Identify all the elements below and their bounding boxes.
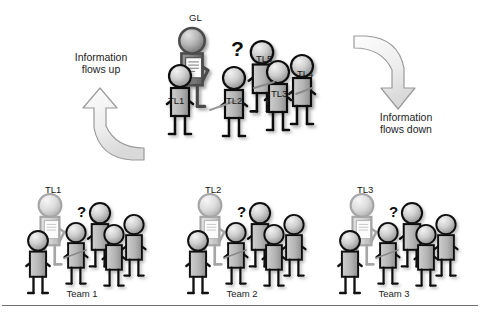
figure-team2-front — [186, 231, 209, 293]
information-flows-down-arrow — [352, 34, 422, 114]
figure-team2-member-2 — [283, 215, 306, 276]
team-3-svg — [330, 188, 470, 300]
arrow-up-wrapper — [76, 86, 146, 166]
figure-team3-front — [338, 231, 361, 293]
figure-team3-member-4 — [415, 225, 438, 286]
flow-down-line2: flows down — [357, 124, 455, 136]
team-3-figures — [330, 188, 470, 300]
label-team-3-leader: TL3 — [357, 185, 373, 196]
team-1-svg — [18, 188, 158, 300]
figure-team3-member-2 — [435, 215, 458, 276]
figure-team2-member-4 — [263, 225, 286, 286]
label-team-1-leader: TL1 — [45, 185, 61, 196]
figure-team1-front — [26, 231, 49, 293]
top-group-figures — [150, 16, 340, 152]
figure-tl4 — [289, 55, 315, 124]
team-1-figures — [18, 188, 158, 300]
flow-up-line1: Information — [58, 52, 144, 64]
team-2-figures — [178, 188, 318, 300]
flow-up-line2: flows up — [58, 64, 144, 76]
question-mark-team-1: ? — [77, 204, 86, 219]
question-mark-team-3: ? — [389, 204, 398, 219]
flow-down-line1: Information — [357, 112, 455, 124]
label-tl5: TL5 — [256, 54, 272, 65]
label-gl: GL — [189, 13, 202, 24]
team-2-svg — [178, 188, 318, 300]
figure-team1-member-4 — [103, 225, 126, 286]
label-tl4: TL4 — [297, 69, 313, 80]
arrow-down-wrapper — [352, 34, 422, 114]
flow-down-caption: Information flows down — [357, 112, 455, 136]
question-mark-team-2: ? — [237, 204, 246, 219]
label-team-2-leader: TL2 — [205, 185, 221, 196]
caption-team-1: Team 1 — [52, 289, 112, 300]
flow-up-caption: Information flows up — [58, 52, 144, 76]
diagram-canvas: Information flows up Information flows d… — [0, 0, 480, 318]
label-tl3: TL3 — [271, 89, 287, 100]
caption-team-3: Team 3 — [364, 289, 424, 300]
label-tl1: TL1 — [168, 96, 184, 107]
figure-team1-member-2 — [123, 215, 146, 276]
caption-team-2: Team 2 — [212, 289, 272, 300]
top-group-svg — [150, 16, 340, 152]
bottom-divider — [2, 305, 478, 306]
question-mark-top: ? — [231, 38, 244, 59]
label-tl2: TL2 — [226, 96, 242, 107]
information-flows-up-arrow — [76, 86, 146, 166]
